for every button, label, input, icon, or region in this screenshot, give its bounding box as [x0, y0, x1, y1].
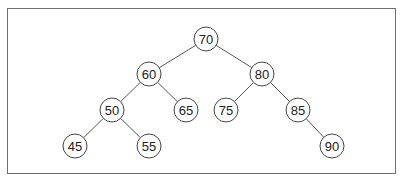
edge-85-90: [306, 119, 324, 138]
tree-node-50: 50: [100, 98, 124, 122]
tree-node-85: 85: [286, 98, 310, 122]
node-label: 70: [199, 32, 213, 47]
node-label: 60: [142, 67, 156, 82]
tree-node-80: 80: [250, 62, 274, 86]
tree-node-45: 45: [63, 134, 87, 158]
tree-node-70: 70: [194, 27, 218, 51]
tree-node-60: 60: [137, 62, 161, 86]
tree-node-90: 90: [320, 134, 344, 158]
tree-node-55: 55: [137, 134, 161, 158]
tree-node-65: 65: [174, 98, 198, 122]
node-label: 90: [325, 139, 339, 154]
node-label: 45: [68, 139, 82, 154]
tree-nodes: 70608050657585455590: [63, 27, 344, 158]
tree-edges: [84, 45, 324, 137]
node-label: 85: [291, 103, 305, 118]
edge-60-65: [158, 82, 178, 101]
node-label: 75: [219, 103, 233, 118]
node-label: 65: [179, 103, 193, 118]
node-label: 55: [142, 139, 156, 154]
node-label: 80: [255, 67, 269, 82]
edge-80-75: [234, 82, 253, 101]
edge-70-60: [159, 45, 196, 67]
edge-70-80: [216, 45, 252, 67]
tree-node-75: 75: [214, 98, 238, 122]
edge-50-45: [84, 118, 104, 137]
edge-60-50: [121, 82, 141, 101]
edge-80-85: [270, 82, 289, 101]
binary-tree-diagram: 70608050657585455590: [0, 0, 403, 182]
edge-50-55: [121, 118, 141, 137]
node-label: 50: [105, 103, 119, 118]
